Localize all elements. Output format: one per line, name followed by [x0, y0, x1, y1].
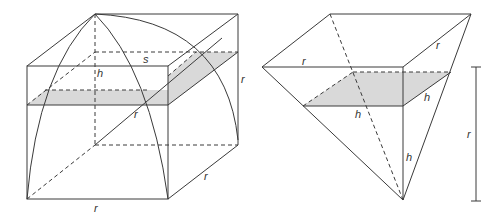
diagram-canvas: s h r r r r r r h h h r — [0, 0, 499, 214]
pyramid-top-left-back-edge — [262, 14, 330, 67]
label-h-left: h — [97, 67, 103, 79]
label-h-vertical: h — [406, 151, 412, 163]
label-r-right: r — [241, 73, 246, 85]
pyramid-figure: r r h h h r — [262, 14, 481, 201]
cube-bottom-right-edge — [168, 145, 238, 199]
label-r-top-left: r — [302, 55, 307, 67]
dome-arc-front-left — [27, 14, 95, 199]
label-r-top-right: r — [436, 39, 441, 51]
dome-arc-back-right — [95, 14, 238, 140]
label-r-diagonal: r — [134, 108, 139, 120]
hidden-apex-edge — [330, 14, 403, 200]
label-r-scale: r — [467, 128, 472, 140]
label-r-bottom: r — [94, 202, 99, 214]
label-s: s — [143, 53, 149, 65]
label-h-front: h — [355, 108, 361, 120]
cube-top-left-edge — [27, 14, 95, 66]
dome-arc-front-right — [95, 14, 168, 199]
cube-dome-figure: s h r r r r — [27, 14, 246, 214]
label-r-depth: r — [204, 170, 209, 182]
label-h-side: h — [424, 91, 430, 103]
hidden-bottom-diagonal — [27, 145, 95, 199]
cube-front-face — [27, 66, 168, 199]
